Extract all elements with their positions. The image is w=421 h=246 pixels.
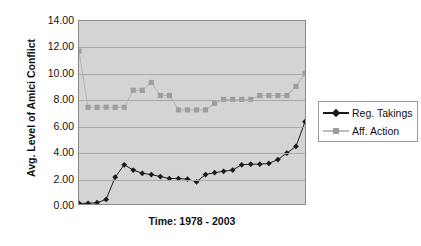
data-point-marker — [212, 101, 217, 106]
data-point-marker — [266, 93, 271, 98]
series-layer — [79, 21, 305, 204]
data-point-marker — [176, 107, 181, 112]
y-tick-label: 2.00 — [28, 174, 74, 184]
data-point-marker — [239, 162, 245, 168]
data-point-marker — [79, 48, 82, 53]
figure-caption — [2, 236, 419, 245]
y-tick-label: 0.00 — [28, 200, 74, 210]
gridline — [79, 100, 305, 101]
gridline — [79, 74, 305, 75]
data-point-marker — [203, 107, 208, 112]
data-point-marker — [257, 93, 262, 98]
y-tick-label: 8.00 — [28, 94, 74, 104]
data-point-marker — [95, 105, 100, 110]
data-point-marker — [266, 161, 272, 167]
y-tick-label: 6.00 — [28, 121, 74, 131]
data-point-marker — [257, 161, 263, 167]
data-point-marker — [167, 93, 172, 98]
data-point-marker — [103, 197, 109, 203]
data-point-marker — [85, 105, 90, 110]
legend-swatch-diamond-icon — [323, 107, 349, 119]
data-point-marker — [230, 167, 236, 173]
data-point-marker — [284, 93, 289, 98]
data-point-marker — [157, 174, 163, 180]
data-point-marker — [293, 84, 298, 89]
data-point-marker — [131, 88, 136, 93]
data-point-marker — [221, 168, 227, 174]
gridline — [79, 127, 305, 128]
series-aff-action — [79, 48, 305, 112]
gridline — [79, 180, 305, 181]
data-point-marker — [85, 200, 91, 204]
legend-item-reg-takings: Reg. Takings — [323, 104, 413, 121]
data-point-marker — [113, 105, 118, 110]
data-point-marker — [148, 172, 154, 178]
data-point-marker — [302, 119, 305, 125]
data-point-marker — [158, 93, 163, 98]
data-point-marker — [139, 170, 145, 176]
gridline — [79, 153, 305, 154]
gridline — [79, 47, 305, 48]
data-point-marker — [130, 167, 136, 173]
series-line — [79, 122, 305, 204]
plot-area — [78, 20, 306, 205]
data-point-marker — [275, 93, 280, 98]
data-point-marker — [248, 161, 254, 167]
chart-legend: Reg. Takings Aff. Action — [318, 101, 418, 142]
data-point-marker — [185, 107, 190, 112]
data-point-marker — [79, 200, 82, 204]
y-tick-label: 10.00 — [28, 68, 74, 78]
data-point-marker — [212, 170, 218, 176]
y-tick-label: 14.00 — [28, 15, 74, 25]
y-axis-tick-labels: 14.0012.0010.008.006.004.002.000.00 — [26, 14, 74, 212]
legend-swatch-square-icon — [323, 125, 349, 137]
y-tick-label: 12.00 — [28, 41, 74, 51]
plot-inner — [79, 21, 305, 204]
data-point-marker — [122, 105, 127, 110]
legend-item-aff-action: Aff. Action — [323, 122, 399, 139]
legend-label-aff-action: Aff. Action — [349, 125, 399, 137]
y-tick-label: 4.00 — [28, 147, 74, 157]
figure-root: Avg. Level of Amici Conflict 14.0012.001… — [0, 0, 421, 246]
data-point-marker — [104, 105, 109, 110]
data-point-marker — [149, 80, 154, 85]
series-line — [79, 51, 305, 110]
data-point-marker — [140, 88, 145, 93]
data-point-marker — [194, 107, 199, 112]
series-reg-takings — [79, 119, 305, 204]
legend-label-reg-takings: Reg. Takings — [349, 107, 413, 119]
x-axis-title: Time: 1978 - 2003 — [78, 214, 306, 228]
data-point-marker — [94, 200, 100, 204]
